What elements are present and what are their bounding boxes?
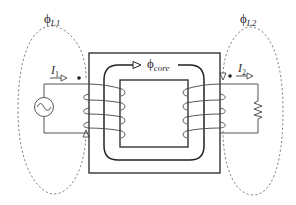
core-flux-arrow: [133, 62, 141, 69]
primary-bottom-wire: [44, 117, 88, 133]
leakage-flux-secondary-label: ϕL2: [240, 12, 256, 28]
secondary-top-wire: [220, 84, 258, 101]
leakage-flux-arrow-secondary: [220, 73, 226, 80]
leakage-flux-loop-secondary: [223, 27, 283, 195]
primary-polarity-dot: [77, 76, 81, 80]
leakage-flux-primary-label: ϕL1: [44, 12, 60, 28]
secondary-polarity-dot: [228, 74, 232, 78]
secondary-bottom-wire: [220, 119, 258, 133]
load-resistor: [254, 101, 262, 119]
secondary-current-label: I2: [238, 62, 246, 77]
primary-top-wire: [44, 84, 88, 97]
core-flux-path: [104, 65, 204, 160]
primary-current-label: I1: [51, 64, 59, 79]
leakage-flux-arrow-primary: [83, 130, 89, 137]
core-flux-label: ϕcore: [147, 57, 170, 73]
transformer-diagram: ϕL1 ϕL2 ϕcore I1 I2: [0, 0, 296, 205]
core-window: [120, 80, 188, 147]
